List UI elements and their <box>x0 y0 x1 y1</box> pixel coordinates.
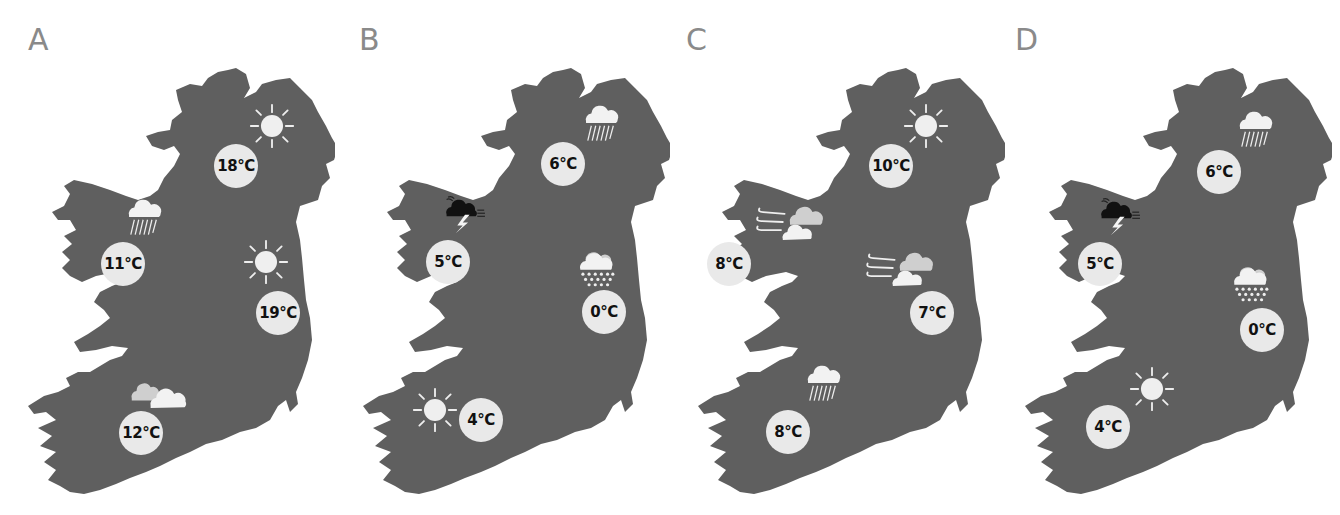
windy-cloud-icon <box>754 200 826 245</box>
thunderstorm-icon <box>1097 196 1143 236</box>
temperature-badge: 7°C <box>910 291 954 335</box>
temperature-badge: 12°C <box>119 411 163 455</box>
temperature-badge: 11°C <box>101 242 145 286</box>
ireland-map <box>997 0 1332 515</box>
sun-icon <box>1129 366 1175 412</box>
thunderstorm-icon <box>442 194 488 234</box>
ireland-map <box>335 0 670 515</box>
temperature-badge: 10°C <box>869 144 913 188</box>
sun-icon <box>903 103 949 149</box>
map-panel-b: B 6°C 5°C 0°C 4°C <box>335 0 670 515</box>
temperature-badge: 4°C <box>459 398 503 442</box>
rain-cloud-icon <box>1233 108 1277 152</box>
temperature-badge: 0°C <box>1240 308 1284 352</box>
map-panel-d: D 6°C 5°C 0°C 4°C <box>1005 0 1340 515</box>
sun-icon <box>249 103 295 149</box>
windy-cloud-icon <box>864 246 936 291</box>
map-panel-c: C 10°C 8°C 7°C 8°C <box>670 0 1005 515</box>
temperature-badge: 8°C <box>766 410 810 454</box>
snow-cloud-icon <box>575 246 619 290</box>
temperature-badge: 18°C <box>214 144 258 188</box>
snow-cloud-icon <box>1229 261 1273 305</box>
rain-cloud-icon <box>122 196 166 240</box>
temperature-badge: 5°C <box>1078 242 1122 286</box>
temperature-badge: 5°C <box>426 240 470 284</box>
rain-cloud-icon <box>579 102 623 146</box>
temperature-badge: 8°C <box>707 242 751 286</box>
sun-icon <box>243 239 289 285</box>
sun-icon <box>412 387 458 433</box>
rain-cloud-icon <box>801 362 845 406</box>
map-panel-a: A 18°C 11°C 19°C 12°C <box>0 0 335 515</box>
temperature-badge: 6°C <box>541 142 585 186</box>
temperature-badge: 0°C <box>582 290 626 334</box>
temperature-badge: 4°C <box>1086 405 1130 449</box>
temperature-badge: 19°C <box>256 291 300 335</box>
partly-cloudy-icon <box>128 374 194 412</box>
temperature-badge: 6°C <box>1197 150 1241 194</box>
